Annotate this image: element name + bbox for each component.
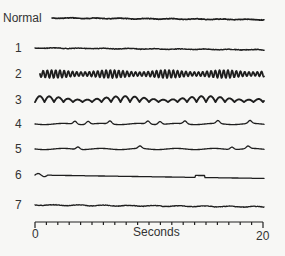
trace-normal — [52, 18, 264, 21]
x-tick-20: 20 — [256, 229, 270, 243]
x-axis-title: Seconds — [133, 225, 180, 239]
label-stage-3: 3 — [15, 93, 22, 107]
row-labels: Normal 1 2 3 4 5 6 7 — [3, 11, 42, 212]
trace-stage-6 — [35, 174, 264, 179]
trace-stage-2 — [40, 70, 264, 78]
label-stage-1: 1 — [15, 41, 22, 55]
label-stage-4: 4 — [15, 117, 22, 131]
trace-stage-1 — [35, 48, 264, 51]
eeg-figure: Normal 1 2 3 4 5 6 7 0 Seconds 20 — [0, 0, 285, 256]
trace-stage-4 — [35, 120, 264, 124]
trace-stage-5 — [35, 146, 264, 150]
x-tick-0: 0 — [32, 227, 39, 241]
x-axis: 0 Seconds 20 — [32, 222, 270, 243]
label-stage-7: 7 — [15, 198, 22, 212]
label-normal: Normal — [3, 11, 42, 25]
trace-stage-3 — [35, 96, 264, 102]
trace-stage-7 — [35, 205, 264, 208]
label-stage-5: 5 — [15, 142, 22, 156]
label-stage-2: 2 — [15, 67, 22, 81]
label-stage-6: 6 — [15, 168, 22, 182]
eeg-traces — [35, 18, 264, 208]
